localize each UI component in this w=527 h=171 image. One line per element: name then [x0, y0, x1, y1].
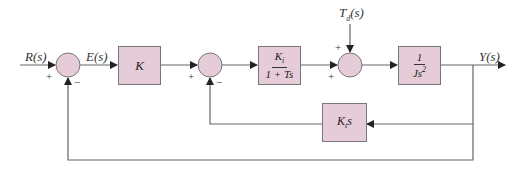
sum-junction-3 [338, 53, 362, 77]
sum1-plus-sign: + [46, 71, 52, 82]
controller-numerator: Ki [272, 51, 288, 68]
disturbance-arg: (s) [350, 5, 364, 20]
sum3-plus-top-sign: + [335, 42, 341, 53]
plant-fraction: 1 Js2 [413, 52, 426, 80]
controller-fraction: Ki 1 + Ts [266, 51, 294, 80]
sum2-minus-sign: − [216, 77, 222, 88]
plant-denominator: Js2 [413, 65, 426, 79]
sum-junction-2 [198, 53, 222, 77]
plant-numerator: 1 [414, 52, 426, 66]
sum2-plus-sign: + [188, 71, 194, 82]
sum-junction-1 [56, 53, 80, 77]
gain-block: K [118, 46, 161, 85]
disturbance-signal-label: Td(s) [339, 6, 364, 23]
controller-denominator: 1 + Ts [266, 68, 294, 81]
sum3-plus-left-sign: + [328, 71, 334, 82]
rate-feedback-block: Kts [322, 103, 367, 142]
output-signal-label: Y(s) [479, 50, 500, 63]
plant-block: 1 Js2 [398, 46, 441, 85]
sum1-minus-sign: − [74, 77, 80, 88]
input-signal-label: R(s) [25, 50, 47, 63]
error-signal-label: E(s) [86, 50, 108, 63]
controller-block: Ki 1 + Ts [258, 46, 301, 85]
gain-label: K [135, 58, 144, 74]
rate-feedback-label: Kts [337, 114, 352, 130]
